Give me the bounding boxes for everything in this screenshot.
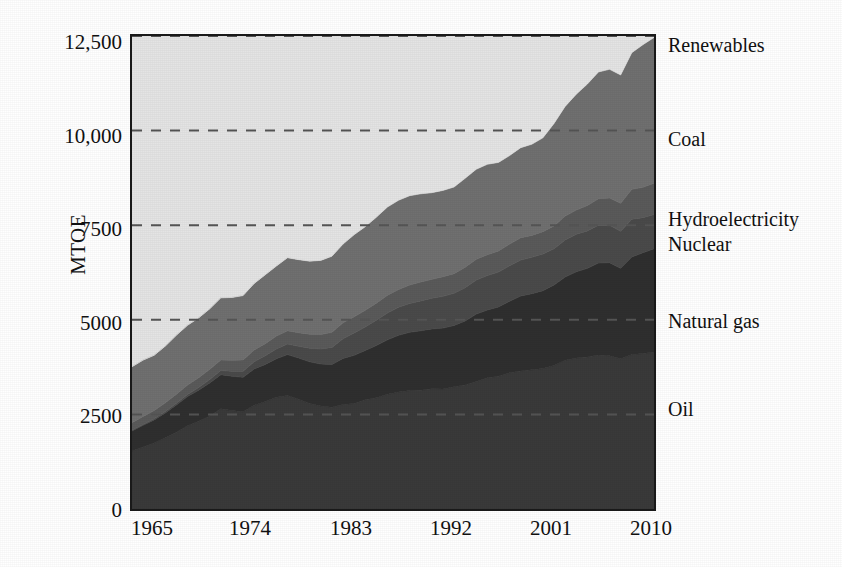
x-tick-1974: 1974 [229,516,271,540]
y-tick-12500: 12,500 [12,32,122,53]
y-tick-5000: 5000 [12,313,122,334]
y-tick-7500: 7500 [12,219,122,240]
y-tick-0: 0 [12,500,122,521]
x-tick-2001: 2001 [530,516,572,540]
series-label-renewables: Renewables [668,34,765,57]
series-label-nuclear: Nuclear [668,233,731,256]
stacked-area-plot [132,36,654,509]
x-tick-1992: 1992 [430,516,472,540]
series-label-natural-gas: Natural gas [668,310,760,333]
x-axis-tick-labels: 1965 1974 1983 1992 2001 2010 [130,516,656,546]
series-label-coal: Coal [668,128,706,151]
plot-area [130,34,656,511]
y-tick-10000: 10,000 [12,126,122,147]
x-tick-2010: 2010 [630,516,672,540]
series-labels: Renewables Coal Hydroelectricity Nuclear… [668,0,842,567]
series-label-hydroelectricity: Hydroelectricity [668,208,799,231]
x-tick-1983: 1983 [330,516,372,540]
series-label-oil: Oil [668,398,694,421]
x-tick-1965: 1965 [131,516,173,540]
y-axis-tick-labels: 12,500 10,000 7500 5000 2500 0 [8,0,122,567]
energy-consumption-stacked-area-figure: MTOE 12,500 10,000 7500 5000 2500 0 1965… [0,0,842,567]
area-series-group [132,36,654,509]
y-tick-2500: 2500 [12,406,122,427]
